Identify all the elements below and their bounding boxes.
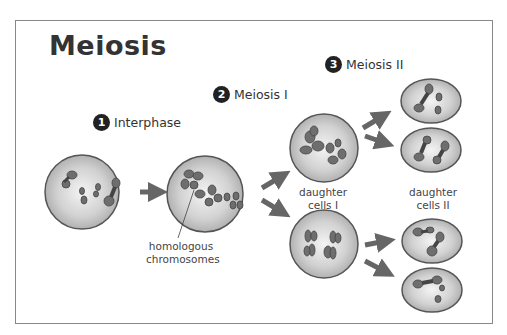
arrow-icon bbox=[365, 136, 385, 143]
cell-meiosis-1 bbox=[167, 156, 243, 238]
cell-daughter-2-b bbox=[401, 128, 461, 172]
meiosis-illustration bbox=[0, 0, 507, 335]
label-daughter-cells-1: daughter cells I bbox=[292, 186, 354, 212]
cell-daughter-2-c bbox=[402, 219, 462, 263]
label-daughter-cells-2: daughter cells II bbox=[402, 186, 464, 212]
arrow-icon bbox=[365, 241, 386, 245]
label-homologous-chromosomes: homologous chromosomes bbox=[146, 240, 216, 266]
arrow-icon bbox=[262, 200, 282, 212]
arrow-icon bbox=[363, 116, 383, 128]
label-line: homologous bbox=[146, 240, 216, 253]
label-line: chromosomes bbox=[146, 253, 216, 266]
cell-daughter-2-d bbox=[402, 268, 462, 312]
cell-daughter-1-bottom bbox=[290, 210, 358, 278]
arrow-icon bbox=[262, 176, 282, 188]
label-line: daughter bbox=[402, 186, 464, 199]
label-line: daughter bbox=[292, 186, 354, 199]
cell-interphase bbox=[45, 155, 120, 229]
cell-daughter-1-top bbox=[290, 114, 358, 182]
label-line: cells I bbox=[292, 199, 354, 212]
arrow-icon bbox=[365, 261, 386, 272]
cell-daughter-2-a bbox=[401, 79, 461, 123]
label-line: cells II bbox=[402, 199, 464, 212]
